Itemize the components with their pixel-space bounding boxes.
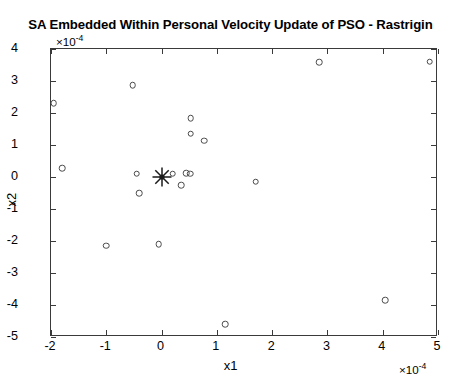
x-tick-label: 4 bbox=[362, 339, 402, 353]
y-tick-label: -5 bbox=[0, 329, 18, 343]
scatter-point bbox=[50, 100, 57, 107]
global-best-star-marker bbox=[151, 167, 172, 188]
y-tick-label: 1 bbox=[0, 137, 18, 151]
scatter-point bbox=[59, 165, 66, 172]
y-tick-label: 2 bbox=[0, 105, 18, 119]
x-tick-label: -1 bbox=[85, 339, 125, 353]
x-tick-label: 0 bbox=[141, 339, 181, 353]
x-axis-title: x1 bbox=[0, 358, 461, 373]
x-tick-label: 2 bbox=[251, 339, 291, 353]
y-axis-multiplier: ×10-4 bbox=[56, 33, 83, 48]
y-tick-label: -2 bbox=[0, 233, 18, 247]
scatter-point bbox=[130, 82, 137, 89]
scatter-point bbox=[426, 59, 433, 66]
y-tick-label: -1 bbox=[0, 201, 18, 215]
x-tick-label: -2 bbox=[30, 339, 70, 353]
scatter-point bbox=[178, 182, 185, 189]
scatter-markers-layer bbox=[51, 49, 438, 337]
y-tick-label: 0 bbox=[0, 169, 18, 183]
x-tick-label: 3 bbox=[306, 339, 346, 353]
y-tick-label: 3 bbox=[0, 73, 18, 87]
x-tick-mark bbox=[438, 330, 439, 335]
figure-canvas: SA Embedded Within Personal Velocity Upd… bbox=[0, 0, 461, 389]
scatter-point bbox=[136, 190, 143, 197]
x-tick-label: 1 bbox=[196, 339, 236, 353]
y-tick-label: -3 bbox=[0, 265, 18, 279]
scatter-point bbox=[222, 321, 229, 328]
scatter-point bbox=[382, 297, 389, 304]
scatter-point bbox=[316, 59, 323, 66]
y-tick-mark bbox=[51, 337, 56, 338]
plot-area bbox=[50, 48, 437, 336]
x-tick-mark bbox=[438, 49, 439, 54]
y-axis-multiplier-exponent: -4 bbox=[76, 33, 84, 43]
y-tick-mark bbox=[431, 337, 436, 338]
y-tick-label: -4 bbox=[0, 297, 18, 311]
chart-title: SA Embedded Within Personal Velocity Upd… bbox=[0, 17, 461, 32]
scatter-point bbox=[252, 179, 259, 186]
y-tick-label: 4 bbox=[0, 41, 18, 55]
y-axis-multiplier-base: ×10 bbox=[56, 35, 76, 48]
x-tick-label: 5 bbox=[417, 339, 457, 353]
scatter-point bbox=[188, 131, 195, 138]
scatter-point bbox=[156, 241, 163, 248]
scatter-point bbox=[133, 171, 140, 178]
scatter-point bbox=[187, 171, 194, 178]
scatter-point bbox=[103, 243, 110, 250]
scatter-point bbox=[188, 115, 195, 122]
scatter-point bbox=[201, 138, 208, 145]
